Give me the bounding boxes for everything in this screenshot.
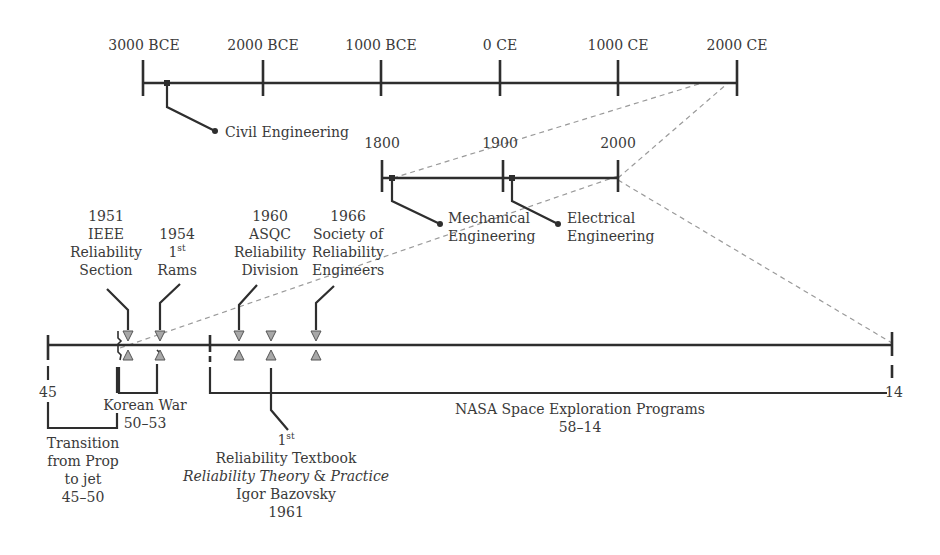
event-year: 1966 bbox=[306, 207, 390, 225]
period-name: Transition bbox=[40, 434, 126, 452]
civil-engineering-callout bbox=[164, 80, 215, 131]
event-year: 1951 bbox=[66, 207, 146, 225]
textbook-title-part: Practice bbox=[331, 468, 390, 484]
mechanical-engineering-label: Mechanical Engineering bbox=[448, 209, 535, 245]
textbook-title: Reliability Theory & Practice bbox=[176, 467, 396, 485]
tick-label-0ce: 0 CE bbox=[470, 36, 530, 54]
top-event-leaders bbox=[107, 284, 334, 330]
ordinal-number: 1 bbox=[277, 432, 286, 448]
period-name: Korean War bbox=[95, 396, 195, 414]
mechanical-engineering-callout bbox=[389, 175, 440, 224]
event-1954-rams: 1954 1st Rams bbox=[152, 225, 202, 279]
electrical-line1: Electrical bbox=[567, 209, 654, 227]
event-line: 1st bbox=[152, 243, 202, 261]
reliability-timeline-axis bbox=[48, 332, 892, 378]
civil-engineering-label: Civil Engineering bbox=[225, 123, 349, 141]
period-range: 45–50 bbox=[40, 488, 126, 506]
textbook-year: 1961 bbox=[176, 503, 396, 521]
textbook-subject: Reliability Textbook bbox=[176, 449, 396, 467]
event-line: Reliability bbox=[66, 243, 146, 261]
tick-label-3000bce: 3000 BCE bbox=[104, 36, 184, 54]
period-name: from Prop bbox=[40, 452, 126, 470]
event-line: Rams bbox=[152, 261, 202, 279]
event-line: Engineers bbox=[306, 261, 390, 279]
period-name: NASA Space Exploration Programs bbox=[450, 400, 710, 418]
start-year-label: 45 bbox=[34, 383, 62, 401]
korean-war-label: Korean War 50–53 bbox=[95, 396, 195, 432]
period-name: to jet bbox=[40, 470, 126, 488]
event-1960-asqc: 1960 ASQC Reliability Division bbox=[228, 207, 312, 279]
ancient-timeline-axis bbox=[143, 60, 737, 96]
tick-label-1000ce: 1000 CE bbox=[578, 36, 658, 54]
ampersand: & bbox=[309, 468, 330, 484]
event-line: Reliability bbox=[306, 243, 390, 261]
textbook-leader bbox=[271, 368, 288, 430]
event-line: Society of bbox=[306, 225, 390, 243]
end-year-label: 14 bbox=[880, 383, 908, 401]
event-1951-ieee: 1951 IEEE Reliability Section bbox=[66, 207, 146, 279]
electrical-line2: Engineering bbox=[567, 227, 654, 245]
event-line: IEEE bbox=[66, 225, 146, 243]
tick-label-2000bce: 2000 BCE bbox=[223, 36, 303, 54]
first-textbook-label: 1st Reliability Textbook Reliability The… bbox=[176, 431, 396, 521]
ordinal-number: 1 bbox=[168, 244, 177, 260]
tick-label-2000ce: 2000 CE bbox=[697, 36, 777, 54]
tick-label-1800: 1800 bbox=[357, 134, 407, 152]
event-year: 1954 bbox=[152, 225, 202, 243]
nasa-programs-label: NASA Space Exploration Programs 58–14 bbox=[450, 400, 710, 436]
mechanical-line2: Engineering bbox=[448, 227, 535, 245]
event-line: Reliability bbox=[228, 243, 312, 261]
mechanical-line1: Mechanical bbox=[448, 209, 535, 227]
tick-label-2000: 2000 bbox=[593, 134, 643, 152]
textbook-title-part: Reliability Theory bbox=[183, 468, 309, 484]
ordinal-suffix: st bbox=[177, 243, 185, 253]
tick-label-1000bce: 1000 BCE bbox=[341, 36, 421, 54]
transition-prop-jet-label: Transition from Prop to jet 45–50 bbox=[40, 434, 126, 506]
period-range: 58–14 bbox=[450, 418, 710, 436]
modern-timeline-axis bbox=[382, 160, 618, 192]
ordinal-suffix: st bbox=[286, 431, 294, 441]
event-1966-sre: 1966 Society of Reliability Engineers bbox=[306, 207, 390, 279]
event-line: Section bbox=[66, 261, 146, 279]
event-line: Division bbox=[228, 261, 312, 279]
tick-label-1900: 1900 bbox=[475, 134, 525, 152]
event-line: ASQC bbox=[228, 225, 312, 243]
period-range: 50–53 bbox=[95, 414, 195, 432]
event-year: 1960 bbox=[228, 207, 312, 225]
textbook-author: Igor Bazovsky bbox=[176, 485, 396, 503]
electrical-engineering-label: Electrical Engineering bbox=[567, 209, 654, 245]
textbook-ordinal: 1st bbox=[176, 431, 396, 449]
